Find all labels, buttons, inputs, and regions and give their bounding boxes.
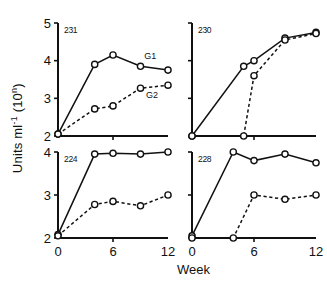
data-point-G2	[251, 192, 257, 198]
chart-panel-228: 0612228	[188, 149, 323, 259]
series-line-G2	[192, 34, 316, 137]
data-point-G2	[55, 131, 61, 137]
figure-root: Units ml-1 (10n) Week 2345231G1G22302340…	[0, 0, 327, 288]
x-tick-label: 6	[109, 244, 116, 259]
chart-panel-224: 2340612224	[44, 145, 175, 260]
axis-lines	[58, 152, 168, 238]
data-point-G2	[282, 196, 288, 202]
y-tick-label: 4	[44, 145, 51, 160]
data-point-G2	[110, 103, 116, 109]
y-axis-unit-open: (10	[10, 93, 25, 112]
data-point-G1	[313, 160, 319, 166]
panel-id-label: 231	[64, 25, 78, 35]
data-point-G1	[92, 151, 98, 157]
data-point-G1	[230, 149, 236, 155]
data-point-G2	[189, 133, 195, 139]
data-point-G2	[110, 198, 116, 204]
series-line-G1	[192, 32, 316, 136]
chart-panel-231: 2345231G1G2	[44, 16, 171, 144]
x-tick-label: 12	[161, 244, 175, 259]
data-point-G2	[230, 235, 236, 241]
data-point-G1	[110, 150, 116, 156]
data-point-G2	[165, 192, 171, 198]
panel-id-label: 230	[198, 25, 212, 35]
data-point-G2	[55, 233, 61, 239]
x-tick-label: 12	[309, 244, 323, 259]
data-point-G1	[241, 63, 247, 69]
x-axis-label: Week	[0, 262, 327, 277]
data-point-G2	[241, 133, 247, 139]
axis-lines	[58, 23, 168, 136]
y-tick-label: 3	[44, 188, 51, 203]
data-point-G1	[137, 63, 143, 69]
y-axis-label-exponent: -1	[9, 116, 19, 124]
y-axis-unit-close: )	[10, 83, 25, 88]
data-point-G1	[282, 151, 288, 157]
x-tick-label: 0	[54, 244, 61, 259]
data-point-G2	[189, 235, 195, 241]
series-label-g2: G2	[146, 90, 158, 100]
x-tick-label: 0	[188, 244, 195, 259]
data-point-G2	[313, 192, 319, 198]
y-tick-label: 2	[44, 129, 51, 144]
data-point-G1	[110, 52, 116, 58]
data-point-G1	[165, 67, 171, 73]
series-line-G2	[192, 195, 316, 238]
data-point-G1	[92, 61, 98, 67]
data-point-G2	[282, 37, 288, 43]
data-point-G1	[137, 151, 143, 157]
data-point-G2	[92, 201, 98, 207]
panel-id-label: 228	[198, 154, 212, 164]
y-tick-label: 2	[44, 231, 51, 246]
y-axis-label: Units ml-1 (10n)	[9, 43, 25, 213]
data-point-G2	[92, 106, 98, 112]
data-point-G2	[313, 30, 319, 36]
y-tick-label: 5	[44, 16, 51, 31]
y-tick-label: 4	[44, 53, 51, 68]
data-point-G2	[137, 203, 143, 209]
data-point-G2	[137, 85, 143, 91]
y-axis-label-text: Units ml	[10, 125, 25, 174]
data-point-G1	[251, 158, 257, 164]
series-line-G1	[58, 152, 168, 235]
data-point-G2	[251, 73, 257, 79]
data-point-G1	[251, 58, 257, 64]
y-tick-label: 3	[44, 91, 51, 106]
axis-lines	[192, 23, 316, 136]
y-axis-unit-exponent: n	[9, 88, 19, 93]
panel-id-label: 224	[64, 154, 78, 164]
series-label-g1: G1	[144, 51, 156, 61]
data-point-G1	[165, 149, 171, 155]
data-point-G2	[165, 82, 171, 88]
plot-canvas: 2345231G1G223023406122240612228	[0, 0, 327, 288]
x-tick-label: 6	[250, 244, 257, 259]
chart-panel-230: 230	[188, 23, 319, 140]
